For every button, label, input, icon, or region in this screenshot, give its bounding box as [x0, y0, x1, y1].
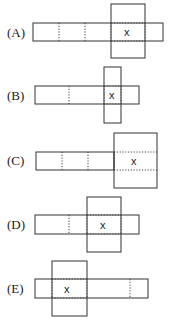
- option-c: (C) x: [7, 133, 157, 188]
- option-label-a: (A): [7, 25, 25, 40]
- option-label-b: (B): [7, 88, 24, 103]
- option-d: (D) x: [7, 197, 139, 252]
- cube-net-options-figure: (A) x (B) x (C) x (D): [0, 0, 170, 324]
- option-label-e: (E): [7, 281, 24, 296]
- x-mark: x: [109, 89, 115, 101]
- net-square: [52, 261, 87, 316]
- option-label-c: (C): [7, 153, 24, 168]
- option-b: (B) x: [7, 67, 139, 123]
- option-a: (A) x: [7, 4, 163, 58]
- x-mark: x: [64, 283, 70, 295]
- option-label-d: (D): [7, 217, 25, 232]
- x-mark: x: [124, 26, 130, 38]
- option-e: (E) x: [7, 261, 148, 316]
- net-strip: [33, 23, 163, 41]
- x-mark: x: [131, 155, 137, 167]
- net-strip: [35, 86, 139, 104]
- net-strip: [36, 152, 114, 170]
- x-mark: x: [100, 219, 106, 231]
